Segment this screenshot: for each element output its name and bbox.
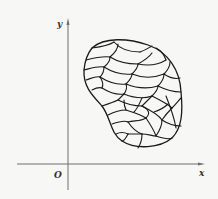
y-axis-arrow-icon: [67, 18, 70, 25]
y-axis-label: y: [56, 19, 63, 29]
region-outline: [84, 40, 182, 147]
region: [84, 40, 182, 148]
region-subdivision: [84, 42, 181, 148]
origin-label: O: [54, 170, 62, 180]
x-axis-arrow-icon: [198, 163, 205, 166]
x-axis-label: x: [198, 168, 205, 178]
diagram-canvas: y x O: [0, 0, 218, 199]
